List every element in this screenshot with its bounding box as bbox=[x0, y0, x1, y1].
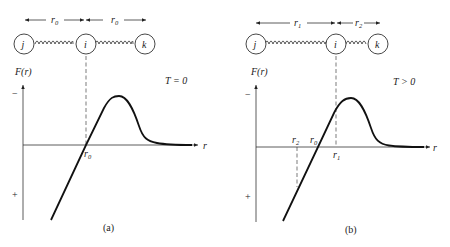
condition-label-b: T > 0 bbox=[393, 76, 415, 87]
y-axis-label-a: F(r) bbox=[14, 66, 32, 78]
atom-k-b: k bbox=[368, 34, 388, 54]
atom-k-a: k bbox=[135, 34, 155, 54]
x-axis-label-b: r bbox=[433, 142, 437, 153]
mark-r2-b: r2 bbox=[292, 134, 300, 146]
mark-r0-b: r0 bbox=[310, 134, 318, 146]
spacing-label-r2: r2 bbox=[355, 17, 363, 29]
svg-text:i: i bbox=[334, 39, 337, 50]
spacing-label-r0-left: r0 bbox=[51, 14, 59, 26]
spacing-label-r0-right: r0 bbox=[111, 14, 119, 26]
panel-a: r0 r0 j i k F(r) T = 0 − + r r0 (a) bbox=[12, 14, 207, 234]
svg-text:k: k bbox=[142, 39, 147, 50]
caption-b: (b) bbox=[345, 224, 357, 236]
x-axis-label-a: r bbox=[203, 140, 207, 151]
svg-text:i: i bbox=[84, 39, 87, 50]
atom-i-a: i bbox=[76, 34, 96, 54]
atom-i-b: i bbox=[326, 34, 346, 54]
spring-j-i-b bbox=[265, 41, 328, 44]
condition-label-a: T = 0 bbox=[165, 75, 187, 86]
sign-plus-a: + bbox=[12, 189, 18, 200]
mark-r1-b: r1 bbox=[333, 149, 340, 161]
figure: r0 r0 j i k F(r) T = 0 − + r r0 (a) bbox=[0, 0, 450, 247]
panel-b: r1 r2 j i k F(r) T > 0 − + r r2 r0 r1 (b… bbox=[245, 17, 437, 236]
force-curve-b bbox=[283, 98, 424, 221]
spring-i-k-b bbox=[346, 41, 366, 44]
sign-plus-b: + bbox=[245, 191, 251, 202]
atom-j-a: j bbox=[14, 34, 34, 54]
spring-j-i-a bbox=[35, 41, 73, 44]
atom-j-b: j bbox=[246, 34, 266, 54]
sign-minus-b: − bbox=[245, 89, 251, 100]
force-curve-a bbox=[51, 96, 192, 220]
mark-r0-a: r0 bbox=[84, 148, 92, 160]
sign-minus-a: − bbox=[12, 88, 18, 99]
y-axis-label-b: F(r) bbox=[250, 66, 268, 78]
spring-i-k-a bbox=[95, 41, 133, 44]
spacing-label-r1: r1 bbox=[294, 17, 301, 29]
caption-a: (a) bbox=[103, 222, 114, 234]
svg-text:k: k bbox=[375, 39, 380, 50]
